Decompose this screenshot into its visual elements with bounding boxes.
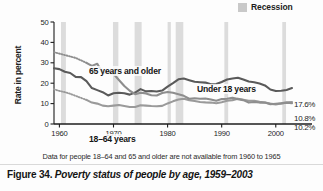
plot-area: 0102030405019601970198019902000 Rate in … (0, 14, 323, 144)
figure-title: Poverty status of people by age, 1959–20… (55, 169, 253, 180)
figure-number: Figure 34. (7, 169, 52, 180)
series-line-dotted (54, 52, 86, 63)
series-label-18-64: 18–64 years (88, 134, 137, 144)
y-axis-tick-label: 10 (40, 99, 48, 108)
y-axis-tick-label: 50 (40, 18, 48, 27)
x-axis-tick-label: 1960 (51, 129, 67, 138)
end-value-18-64: 10.8% (294, 114, 315, 123)
recession-band (61, 22, 66, 124)
x-axis-tick-label: 2000 (268, 129, 284, 138)
end-value-65-and-older: 10.2% (294, 123, 315, 132)
y-axis-tick-label: 40 (40, 38, 48, 47)
series-label-under-18: Under 18 years (196, 84, 257, 94)
series-label-65-and-older: 65 years and older (88, 66, 162, 76)
caption-divider (0, 164, 323, 165)
chart-legend: Recession (238, 2, 293, 12)
y-axis-tick-label: 20 (40, 79, 48, 88)
chart-footnote: Data for people 18–64 and 65 and older a… (0, 152, 323, 161)
line-chart-svg: 0102030405019601970198019902000 (0, 14, 323, 144)
recession-legend-label: Recession (251, 2, 293, 12)
figure-container: Recession 010203040501960197019801990200… (0, 0, 323, 191)
recession-legend-swatch (238, 3, 247, 12)
recession-band (176, 22, 184, 124)
x-axis-tick-label: 1980 (160, 129, 176, 138)
figure-caption: Figure 34. Poverty status of people by a… (7, 169, 323, 180)
recession-band (282, 22, 286, 124)
recession-band (224, 22, 228, 124)
recession-band (168, 22, 171, 124)
y-axis-tick-label: 0 (44, 120, 48, 129)
end-value-under-18: 17.6% (294, 100, 315, 109)
series-line-dotted (54, 89, 86, 100)
y-axis-tick-label: 30 (40, 58, 48, 67)
x-axis-tick-label: 1990 (214, 129, 230, 138)
y-axis-title: Rate in percent (13, 39, 23, 111)
